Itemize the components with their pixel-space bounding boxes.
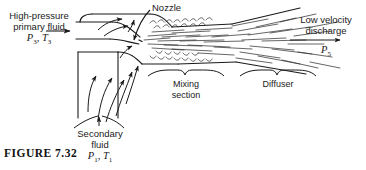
nozzle-label-text: Nozzle: [152, 2, 181, 13]
diffuser-label: Diffuser: [240, 79, 316, 90]
primary-inlet-line2: primary fluid: [0, 21, 78, 32]
discharge-pressure-subscript: 5: [327, 50, 331, 58]
secondary-pressure-subscript: 1: [94, 156, 98, 164]
secondary-fluid-duct: [78, 14, 178, 118]
discharge-pressure-label: P5: [288, 44, 364, 60]
discharge-label: Low velocity discharge: [288, 14, 364, 36]
primary-inlet-line1: High-pressure: [0, 10, 78, 21]
secondary-inlet-line1: Secondary: [62, 128, 138, 139]
diffuser-brace: [240, 70, 316, 76]
diffuser-line1: Diffuser: [240, 79, 316, 90]
discharge-line1: Low velocity: [288, 14, 364, 25]
mixing-section-label: Mixing section: [148, 79, 224, 100]
primary-pressure-subscript: 3: [33, 38, 37, 46]
primary-inlet-label: High-pressure primary fluid P3, T3: [0, 10, 78, 48]
primary-temperature-subscript: 3: [48, 38, 52, 46]
figure-container: High-pressure primary fluid P3, T3 Nozzl…: [0, 0, 366, 170]
mixing-section-line2: section: [148, 90, 224, 101]
mixing-section-brace: [148, 70, 224, 76]
secondary-inlet-funnel: [74, 116, 124, 128]
nozzle-label: Nozzle: [152, 2, 181, 13]
mixing-section-line1: Mixing: [148, 79, 224, 90]
figure-caption: FIGURE 7.32: [4, 147, 77, 159]
primary-inlet-symbols: P3, T3: [0, 32, 78, 48]
secondary-temperature-subscript: 1: [109, 156, 113, 164]
secondary-flow-arrows-lower: [88, 46, 138, 122]
discharge-line2: discharge: [288, 25, 364, 36]
